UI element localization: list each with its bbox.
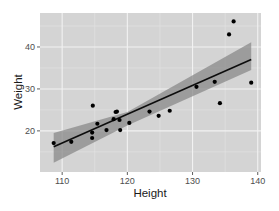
data-point xyxy=(127,121,131,125)
x-axis-title: Height xyxy=(133,187,167,199)
data-point xyxy=(249,81,253,85)
x-axis-ticks: 110120130140 xyxy=(55,172,265,186)
data-point xyxy=(218,101,222,105)
data-point xyxy=(194,85,198,89)
y-tick-label: 40 xyxy=(25,42,35,52)
x-tick-label: 140 xyxy=(250,176,265,186)
scatter-plot: 110120130140 203040 Height Weight xyxy=(0,0,279,211)
data-point xyxy=(157,114,161,118)
data-point xyxy=(90,136,94,140)
data-point xyxy=(112,117,116,121)
data-point xyxy=(52,141,56,145)
data-point xyxy=(147,109,151,113)
x-tick-label: 130 xyxy=(185,176,200,186)
data-point xyxy=(95,122,99,126)
y-tick-label: 30 xyxy=(25,84,35,94)
data-point xyxy=(227,32,231,36)
data-point xyxy=(213,80,217,84)
data-point xyxy=(232,19,236,23)
data-point xyxy=(168,109,172,113)
x-tick-label: 110 xyxy=(55,176,69,186)
data-point xyxy=(115,109,119,113)
data-point xyxy=(118,128,122,132)
data-point xyxy=(91,104,95,108)
y-axis-ticks: 203040 xyxy=(25,42,40,136)
data-point xyxy=(90,130,94,134)
data-point xyxy=(104,128,108,132)
x-tick-label: 120 xyxy=(120,176,135,186)
y-tick-label: 20 xyxy=(25,126,35,136)
data-point xyxy=(69,140,73,144)
y-axis-title: Weight xyxy=(12,73,24,109)
data-point xyxy=(117,118,121,122)
